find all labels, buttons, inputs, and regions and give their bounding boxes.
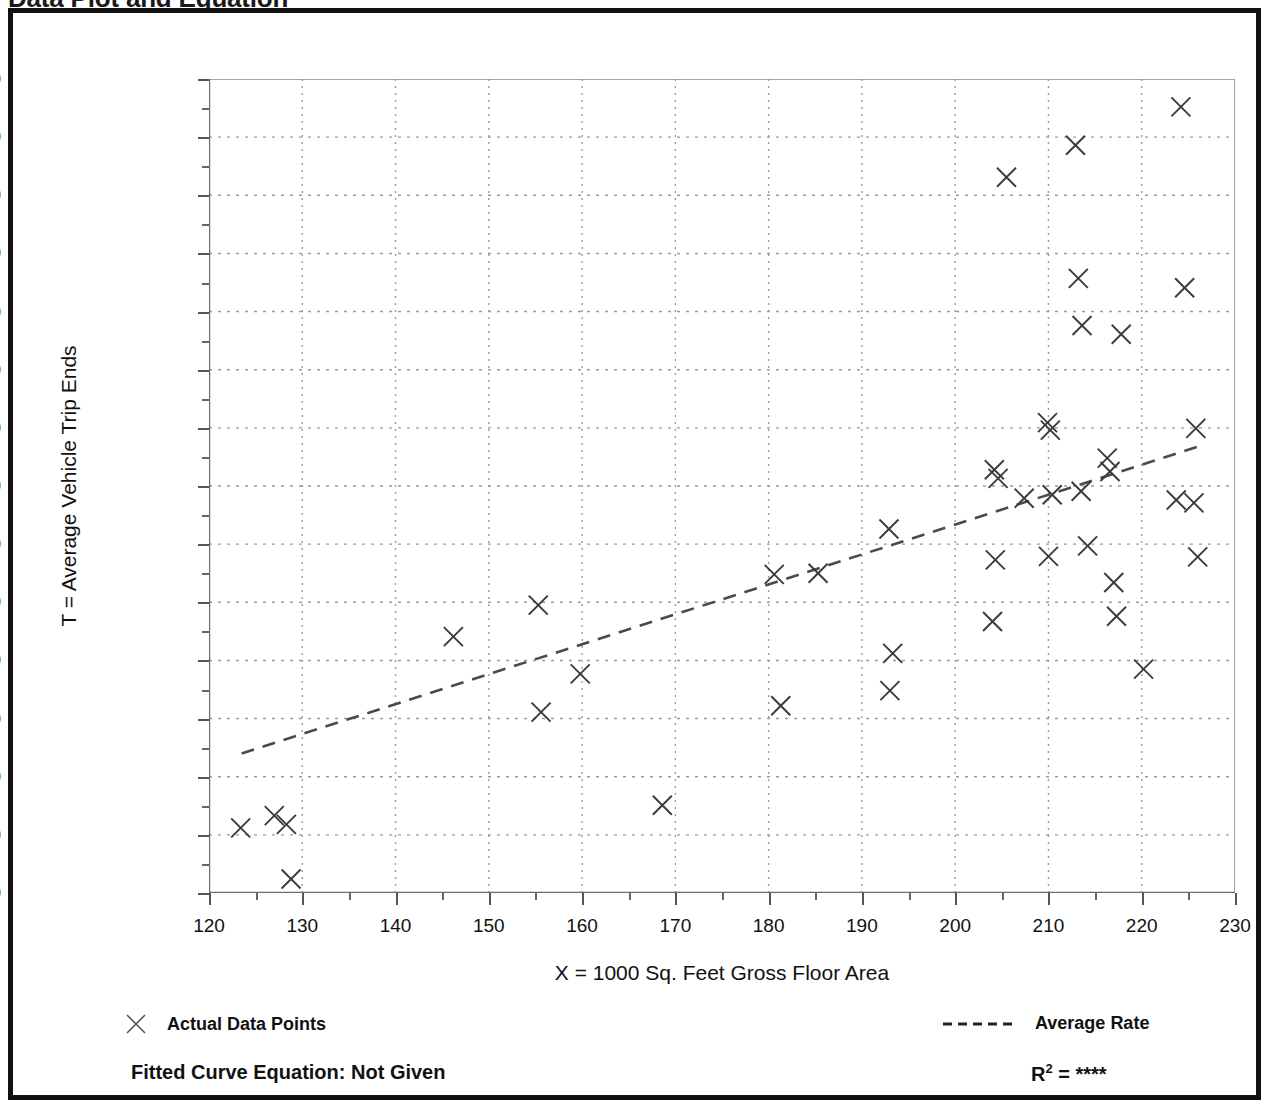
y-axis-tick-label: 1,700 <box>0 126 1 148</box>
y-axis-tick <box>198 195 209 197</box>
x-axis-tick <box>489 893 491 905</box>
y-axis-minor-tick <box>202 573 209 575</box>
x-axis-tick-label: 210 <box>1033 915 1065 937</box>
y-axis-minor-tick <box>202 515 209 517</box>
x-axis-tick-label: 190 <box>846 915 878 937</box>
x-axis-tick <box>675 893 677 905</box>
x-axis-tick-label: 150 <box>473 915 505 937</box>
y-axis-tick <box>198 544 209 546</box>
r2-exponent: 2 <box>1045 1061 1052 1076</box>
y-axis-tick-label: 1,100 <box>0 475 1 497</box>
y-axis-tick-label: 900 <box>0 591 1 613</box>
fitted-curve-equation: Fitted Curve Equation: Not Given <box>131 1061 445 1084</box>
x-axis-tick <box>209 893 211 905</box>
y-axis-minor-tick <box>202 341 209 343</box>
x-axis-tick <box>955 893 957 905</box>
x-axis-tick <box>1048 893 1050 905</box>
plot-area: 4005006007008009001,0001,1001,2001,3001,… <box>209 79 1235 893</box>
y-axis-minor-tick <box>202 864 209 866</box>
y-axis-tick-label: 1,600 <box>0 184 1 206</box>
x-axis-minor-tick <box>535 893 537 900</box>
x-axis-minor-tick <box>1095 893 1097 900</box>
r-squared-value: R2 = **** <box>1031 1061 1107 1086</box>
y-axis-tick <box>198 370 209 372</box>
y-axis-minor-tick <box>202 457 209 459</box>
r2-prefix: R <box>1031 1063 1045 1085</box>
y-axis-tick <box>198 79 209 81</box>
y-axis-tick <box>198 602 209 604</box>
x-axis-minor-tick <box>629 893 631 900</box>
y-axis-minor-tick <box>202 224 209 226</box>
legend-item-actual-data-points: Actual Data Points <box>125 1013 326 1035</box>
y-axis-tick <box>198 312 209 314</box>
x-axis-tick-label: 230 <box>1219 915 1251 937</box>
r2-stars: **** <box>1075 1063 1106 1085</box>
x-axis-tick <box>862 893 864 905</box>
x-axis-tick-label: 120 <box>193 915 225 937</box>
x-axis-minor-tick <box>722 893 724 900</box>
x-marker-icon <box>125 1013 147 1035</box>
y-axis-tick <box>198 660 209 662</box>
x-axis-minor-tick <box>1188 893 1190 900</box>
y-axis-tick-label: 1,400 <box>0 301 1 323</box>
y-axis-tick <box>198 835 209 837</box>
y-axis-tick-label: 400 <box>0 882 1 904</box>
x-axis-tick <box>1142 893 1144 905</box>
y-axis-minor-tick <box>202 108 209 110</box>
y-axis-minor-tick <box>202 690 209 692</box>
y-axis-tick-label: 1,800 <box>0 68 1 90</box>
x-axis-minor-tick <box>909 893 911 900</box>
legend-item-average-rate: Average Rate <box>943 1013 1149 1034</box>
x-axis-tick <box>396 893 398 905</box>
x-axis-minor-tick <box>256 893 258 900</box>
y-axis-minor-tick <box>202 631 209 633</box>
x-axis-minor-tick <box>1002 893 1004 900</box>
y-axis-tick <box>198 253 209 255</box>
y-axis-tick-label: 1,300 <box>0 359 1 381</box>
x-axis-tick-label: 160 <box>566 915 598 937</box>
y-axis-tick <box>198 428 209 430</box>
x-axis-tick <box>769 893 771 905</box>
legend-label-average-rate: Average Rate <box>1035 1013 1149 1034</box>
y-axis-tick-label: 500 <box>0 824 1 846</box>
y-axis-minor-tick <box>202 283 209 285</box>
y-axis-minor-tick <box>202 399 209 401</box>
x-axis-tick-label: 170 <box>660 915 692 937</box>
plot-surface <box>209 79 1235 893</box>
x-axis-minor-tick <box>442 893 444 900</box>
y-axis-tick <box>198 777 209 779</box>
x-axis-tick-label: 180 <box>753 915 785 937</box>
y-axis-tick <box>198 486 209 488</box>
y-axis-tick-label: 600 <box>0 766 1 788</box>
x-axis-tick-label: 200 <box>939 915 971 937</box>
x-axis-minor-tick <box>349 893 351 900</box>
legend-label-actual-data-points: Actual Data Points <box>167 1014 326 1035</box>
chart-frame: T = Average Vehicle Trip Ends X = 1000 S… <box>8 8 1261 1100</box>
x-axis-tick <box>302 893 304 905</box>
x-axis-tick <box>582 893 584 905</box>
x-axis-title: X = 1000 Sq. Feet Gross Floor Area <box>555 961 889 985</box>
y-axis-tick-label: 1,200 <box>0 417 1 439</box>
y-axis-title: T = Average Vehicle Trip Ends <box>57 345 81 626</box>
x-axis-tick-label: 140 <box>380 915 412 937</box>
y-axis-tick-label: 800 <box>0 649 1 671</box>
dashed-line-icon <box>943 1022 1015 1026</box>
y-axis-tick-label: 1,500 <box>0 242 1 264</box>
y-axis-minor-tick <box>202 806 209 808</box>
y-axis-tick-label: 700 <box>0 708 1 730</box>
y-axis-tick <box>198 137 209 139</box>
x-axis-tick <box>1235 893 1237 905</box>
y-axis-minor-tick <box>202 748 209 750</box>
y-axis-tick <box>198 893 209 895</box>
y-axis-tick-label: 1,000 <box>0 533 1 555</box>
x-axis-tick-label: 130 <box>286 915 318 937</box>
y-axis-minor-tick <box>202 166 209 168</box>
chart-page: Data Plot and Equation T = Average Vehic… <box>0 0 1273 1114</box>
r2-equals: = <box>1053 1063 1076 1085</box>
x-axis-tick-label: 220 <box>1126 915 1158 937</box>
x-axis-minor-tick <box>815 893 817 900</box>
y-axis-tick <box>198 719 209 721</box>
